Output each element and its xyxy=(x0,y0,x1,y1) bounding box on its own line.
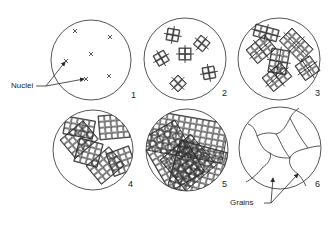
nuclei-label: Nuclei xyxy=(11,81,33,90)
grain-boundaries xyxy=(246,108,320,186)
panel-2 xyxy=(144,18,226,100)
panel-3 xyxy=(238,18,324,100)
nuclei-pointer xyxy=(36,62,84,86)
panel-number-2: 2 xyxy=(222,88,227,98)
panel-4 xyxy=(53,110,137,190)
nucleus-markers xyxy=(64,29,112,81)
panel-6 xyxy=(239,107,321,189)
panel-number-6: 6 xyxy=(315,179,320,189)
panel-number-3: 3 xyxy=(315,88,320,98)
panel-1 xyxy=(51,20,131,100)
grains-pointer xyxy=(264,174,298,203)
panel-5 xyxy=(140,109,229,201)
panel-number-4: 4 xyxy=(128,179,133,189)
solidification-diagram xyxy=(0,0,330,225)
grains-label: Grains xyxy=(230,198,254,207)
panel-number-1: 1 xyxy=(131,90,136,100)
panel-number-5: 5 xyxy=(222,179,227,189)
